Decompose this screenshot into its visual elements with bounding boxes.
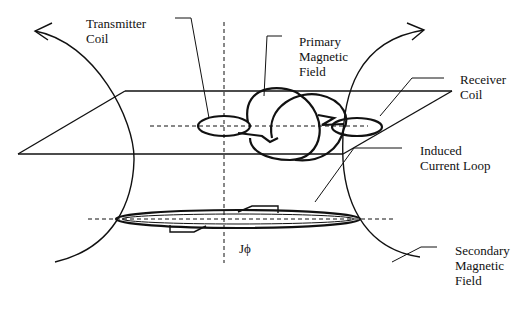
label-primary-field: Primary Magnetic Field — [299, 34, 348, 79]
label-current-density: Jϕ — [239, 241, 251, 256]
ground-plane — [18, 91, 452, 154]
receiver-coil — [332, 118, 382, 136]
primary-field-loops — [238, 88, 346, 160]
label-induced-current-loop: Induced Current Loop — [420, 143, 490, 173]
leader-secondary — [392, 247, 437, 262]
leader-transmitter — [175, 18, 209, 118]
secondary-field-left-curve — [35, 23, 134, 262]
label-receiver-coil: Receiver Coil — [460, 72, 506, 102]
leader-induced — [315, 148, 402, 202]
diagram-canvas: Transmitter Coil Primary Magnetic Field … — [0, 0, 532, 309]
label-transmitter-coil: Transmitter Coil — [86, 16, 146, 46]
leader-receiver — [380, 78, 444, 116]
leader-primary — [264, 36, 282, 96]
label-secondary-field: Secondary Magnetic Field — [455, 243, 510, 288]
